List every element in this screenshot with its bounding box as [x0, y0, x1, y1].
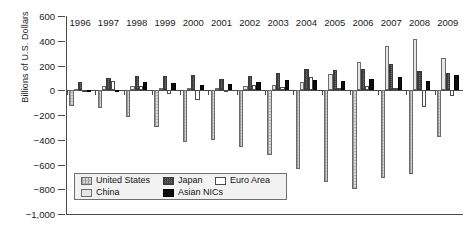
x-tick — [406, 91, 407, 95]
bar-japan-2008 — [417, 71, 421, 90]
legend-swatch-icon — [81, 189, 92, 197]
x-tick-label: 1997 — [98, 17, 119, 28]
y-tick — [58, 115, 65, 116]
legend-swatch-icon — [81, 177, 92, 185]
bar-asian-nics-2004 — [313, 80, 317, 90]
y-tick — [58, 189, 65, 190]
bar-united-states-2003 — [267, 90, 271, 154]
bar-euro-area-2000 — [195, 90, 199, 100]
y-tick-label: 600 — [39, 11, 55, 22]
legend-item-united-states[interactable]: United States — [81, 176, 150, 185]
legend-swatch-icon — [163, 177, 174, 185]
x-tick-label: 1999 — [154, 17, 175, 28]
x-tick — [67, 91, 68, 95]
bar-asian-nics-1998 — [143, 82, 147, 90]
bar-asian-nics-2007 — [398, 77, 402, 90]
x-tick — [322, 91, 323, 95]
y-tick-label: 0 — [50, 85, 55, 96]
bar-japan-2009 — [446, 73, 450, 91]
y-tick — [58, 41, 65, 42]
bar-asian-nics-2009 — [454, 75, 458, 90]
x-tick-label: 2002 — [239, 17, 260, 28]
y-tick-label: 400 — [39, 35, 55, 46]
bar-united-states-2008 — [409, 90, 413, 174]
legend-label: United States — [96, 176, 150, 185]
bar-euro-area-1999 — [167, 90, 171, 94]
bar-japan-1999 — [163, 76, 167, 90]
bar-united-states-1997 — [98, 90, 102, 107]
bar-united-states-2001 — [211, 90, 215, 139]
x-tick — [265, 91, 266, 95]
y-tick-label: −1,000 — [26, 209, 55, 220]
bar-asian-nics-2008 — [426, 81, 430, 91]
x-tick — [293, 91, 294, 95]
bar-euro-area-2008 — [422, 90, 426, 107]
x-tick — [180, 91, 181, 95]
bar-asian-nics-2005 — [341, 81, 345, 91]
bar-group — [377, 16, 405, 214]
bar-group — [405, 16, 433, 214]
bar-asian-nics-2000 — [200, 85, 204, 90]
legend-swatch-icon — [215, 177, 226, 185]
bottom-axis-line — [66, 214, 463, 215]
y-tick — [58, 140, 65, 141]
legend-row-2: ChinaAsian NICs — [75, 188, 286, 201]
bar-united-states-2005 — [324, 90, 328, 182]
y-tick — [58, 90, 65, 91]
bar-japan-2000 — [191, 75, 195, 90]
bar-united-states-2004 — [296, 90, 300, 168]
x-tick — [237, 91, 238, 95]
bar-asian-nics-1997 — [115, 90, 119, 92]
x-tick — [208, 91, 209, 95]
x-tick-label: 2000 — [183, 17, 204, 28]
bar-group — [349, 16, 377, 214]
bar-united-states-2007 — [381, 90, 385, 178]
bar-united-states-1999 — [154, 90, 158, 127]
x-tick — [435, 91, 436, 95]
legend-swatch-icon — [163, 189, 174, 197]
y-tick-label: 200 — [39, 60, 55, 71]
y-tick-label: −800 — [34, 184, 55, 195]
y-tick — [58, 214, 65, 215]
legend-label: Asian NICs — [178, 188, 223, 197]
chart-legend: United StatesJapanEuro Area ChinaAsian N… — [74, 173, 287, 200]
x-tick-label: 2003 — [268, 17, 289, 28]
bar-united-states-2002 — [239, 90, 243, 147]
bar-japan-2007 — [389, 64, 393, 90]
x-tick — [378, 91, 379, 95]
legend-item-euro-area[interactable]: Euro Area — [215, 176, 270, 185]
y-tick-label: −200 — [34, 110, 55, 121]
x-tick-label: 2007 — [381, 17, 402, 28]
x-tick — [350, 91, 351, 95]
x-tick — [124, 91, 125, 95]
x-tick-label: 2009 — [437, 17, 458, 28]
bar-euro-area-2009 — [450, 90, 454, 96]
bar-asian-nics-2001 — [228, 84, 232, 90]
bar-united-states-1998 — [126, 90, 130, 117]
y-tick-label: −600 — [34, 159, 55, 170]
x-tick — [152, 91, 153, 95]
legend-label: China — [96, 188, 120, 197]
bar-asian-nics-1999 — [171, 83, 175, 91]
legend-label: Japan — [178, 176, 203, 185]
legend-item-china[interactable]: China — [81, 188, 120, 197]
y-tick-label: −400 — [34, 134, 55, 145]
bar-united-states-1996 — [69, 90, 73, 105]
bar-group — [292, 16, 320, 214]
x-tick-label: 2001 — [211, 17, 232, 28]
bar-asian-nics-2003 — [285, 80, 289, 90]
x-tick — [95, 91, 96, 95]
bar-united-states-2009 — [437, 90, 441, 137]
legend-item-japan[interactable]: Japan — [163, 176, 203, 185]
bar-japan-1996 — [78, 82, 82, 90]
bar-united-states-2000 — [183, 90, 187, 142]
y-tick — [58, 165, 65, 166]
x-tick-label: 2004 — [296, 17, 317, 28]
bar-euro-area-2001 — [224, 90, 228, 92]
bar-asian-nics-2002 — [256, 82, 260, 90]
y-axis-title: Billions of U.S. Dollars — [20, 0, 30, 142]
chart-root: Billions of U.S. Dollars 6004002000−200−… — [0, 0, 467, 238]
x-tick-label: 1998 — [126, 17, 147, 28]
legend-item-asian-nics[interactable]: Asian NICs — [163, 188, 223, 197]
bar-japan-2001 — [219, 79, 223, 90]
